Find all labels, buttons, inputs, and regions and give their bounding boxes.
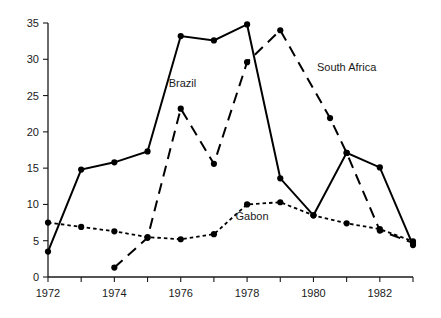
chart-canvas: 05101520253035 197219741976197819801982 … [0, 0, 441, 318]
data-point-marker [377, 164, 383, 170]
data-point-marker [244, 21, 250, 27]
y-tick-label: 5 [33, 235, 39, 247]
data-point-marker [344, 220, 350, 226]
data-point-marker [111, 228, 117, 234]
y-tick-label: 25 [27, 90, 39, 102]
data-point-marker [277, 27, 283, 33]
x-tick-label: 1972 [36, 287, 60, 299]
data-point-marker [45, 249, 51, 255]
x-tick-label: 1976 [168, 287, 192, 299]
y-tick-label: 30 [27, 53, 39, 65]
y-axis: 05101520253035 [27, 17, 48, 283]
series-line-gabon [48, 202, 413, 241]
series-gabon [45, 199, 416, 244]
data-point-marker [178, 106, 184, 112]
data-point-marker [111, 159, 117, 165]
data-point-marker [277, 175, 283, 181]
series-label-gabon: Gabon [236, 210, 269, 222]
x-tick-label: 1978 [235, 287, 259, 299]
data-point-marker [45, 219, 51, 225]
x-axis: 197219741976197819801982 [36, 277, 413, 299]
data-point-marker [211, 37, 217, 43]
series-label-south-africa: South Africa [317, 61, 377, 73]
data-point-marker [244, 59, 250, 65]
data-point-marker [178, 33, 184, 39]
data-point-marker [178, 236, 184, 242]
x-tick-label: 1982 [368, 287, 392, 299]
x-tick-label: 1974 [102, 287, 126, 299]
data-point-marker [327, 115, 333, 121]
data-point-marker [111, 264, 117, 270]
y-tick-label: 20 [27, 126, 39, 138]
x-tick-label: 1980 [301, 287, 325, 299]
series-line-brazil [48, 24, 413, 251]
data-point-marker [144, 234, 150, 240]
data-point-marker [78, 166, 84, 172]
data-point-marker [310, 212, 316, 218]
data-point-marker [244, 201, 250, 207]
line-chart-figure: 05101520253035 197219741976197819801982 … [0, 0, 441, 318]
y-tick-label: 0 [33, 271, 39, 283]
data-point-marker [144, 148, 150, 154]
data-point-marker [410, 238, 416, 244]
data-point-marker [344, 150, 350, 156]
y-tick-label: 35 [27, 17, 39, 29]
data-point-marker [211, 231, 217, 237]
data-point-marker [377, 226, 383, 232]
series-layer [45, 21, 416, 270]
data-point-marker [277, 199, 283, 205]
data-point-marker [78, 224, 84, 230]
data-point-marker [211, 161, 217, 167]
y-tick-label: 10 [27, 198, 39, 210]
y-tick-label: 15 [27, 162, 39, 174]
series-label-brazil: Brazil [169, 77, 197, 89]
